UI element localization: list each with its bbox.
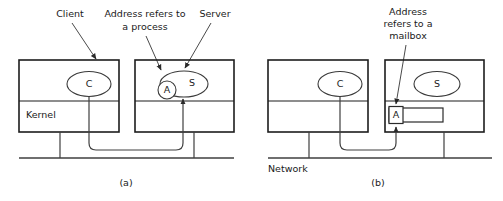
diagram-canvas: Client Address refers to a process Serve… — [0, 0, 503, 201]
client-process-label: C — [337, 78, 344, 89]
client-process-label: C — [86, 78, 93, 89]
client-machine-outline — [19, 60, 119, 132]
panel-a: Client Address refers to a process Serve… — [19, 8, 234, 188]
server-annotation: Server — [185, 8, 231, 68]
server-address-label: A — [164, 84, 171, 95]
panel-b-server-machine: S A — [385, 60, 484, 132]
address-process-annotation-line-1: Address refers to — [105, 8, 186, 19]
server-annotation-line-1: Server — [199, 8, 230, 19]
panel-a-message-path — [89, 97, 183, 151]
client-machine-kernel-label: Kernel — [26, 109, 56, 120]
mailbox-address-label: A — [393, 109, 400, 120]
address-mailbox-annotation-line-1: Address — [389, 6, 427, 17]
panel-b-caption: (b) — [371, 177, 384, 188]
address-mailbox-annotation-line-2: refers to a — [384, 18, 433, 29]
server-process-label: S — [434, 78, 440, 89]
address-mailbox-annotation-line-3: mailbox — [389, 30, 427, 41]
panel-a-server-machine: S A — [135, 60, 234, 132]
server-process-label: S — [189, 77, 195, 88]
client-machine-outline — [268, 60, 368, 132]
client-annotation-line-1: Client — [56, 8, 84, 19]
panel-a-client-machine: Kernel C — [19, 60, 119, 132]
address-process-annotation-leader — [146, 36, 161, 70]
server-annotation-leader — [185, 23, 211, 68]
address-process-annotation-line-2: a process — [122, 21, 167, 32]
panel-b: Address refers to a mailbox C S — [268, 6, 492, 188]
client-annotation-leader — [72, 23, 96, 59]
panel-b-network-label: Network — [268, 163, 308, 174]
panel-b-client-machine: C — [268, 60, 368, 132]
figure-container: Client Address refers to a process Serve… — [0, 0, 503, 201]
panel-a-caption: (a) — [119, 177, 132, 188]
address-mailbox-annotation-leader — [396, 45, 406, 104]
client-annotation: Client — [56, 8, 96, 59]
